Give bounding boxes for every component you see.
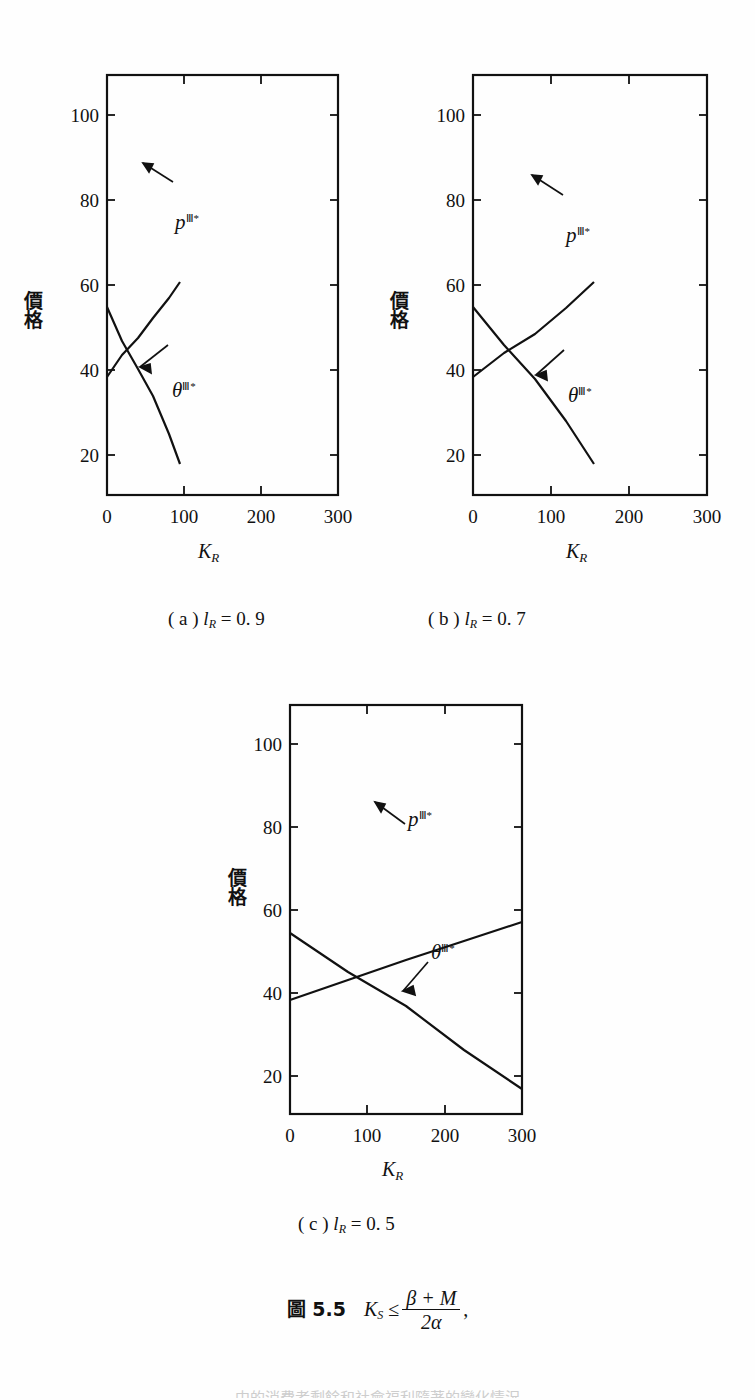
panel-b-x-axis-label-main: K [566,540,579,562]
panel-b-ytick-100: 100 [437,105,466,126]
panel-a-y-ticks [107,115,338,455]
panel-b-xtick-200: 200 [615,506,644,527]
page-bottom-bleed-text: 中的消費者剩餘和社會福利隨著的變化情況 [0,1386,755,1398]
panel-b-caption: ( b ) lR = 0. 7 [428,608,526,632]
panel-b-xtick-300: 300 [693,506,722,527]
panel-c-label-p-sup: Ⅲ* [419,809,433,821]
panel-a-svg: 100 80 60 40 20 0 100 200 300 [0,55,370,555]
panel-b-xtick-100: 100 [537,506,566,527]
panel-b-xtick-0: 0 [468,506,478,527]
panel-a-caption-eq: = [221,608,232,629]
formula-lhs-sub: S [377,1308,383,1322]
panel-a: 價格 [0,55,370,600]
panel-a-ytick-20: 20 [80,445,99,466]
panel-b-svg: 100 80 60 40 20 0 100 200 300 [366,55,746,555]
panel-b-x-axis-label-sub: R [579,550,587,565]
panel-b-x-axis-label: KR [566,540,587,566]
panel-c-xtick-0: 0 [285,1125,295,1146]
panel-c-label-theta: θⅢ* [431,940,455,965]
panel-c-label-p-symbol: p [408,807,419,831]
panel-a-x-axis-label-main: K [198,540,211,562]
panel-b-caption-value: 0. 7 [497,608,526,629]
panel-a-ytick-80: 80 [80,190,99,211]
panel-a-label-p-sup: Ⅲ* [186,212,200,224]
panel-b-ytick-20: 20 [446,445,465,466]
panel-c-ytick-100: 100 [254,734,283,755]
panel-b-label-p: pⅢ* [566,223,590,248]
formula-denominator: 2α [402,1309,460,1333]
panel-c-xtick-200: 200 [431,1125,460,1146]
panel-a-ytick-100: 100 [71,105,100,126]
panel-a-label-p-symbol: p [175,210,186,234]
panel-c-y-ticks [290,744,522,1076]
panel-c-svg: 100 80 60 40 20 0 100 200 300 [183,690,583,1160]
panel-c-ytick-60: 60 [263,900,282,921]
panel-a-x-ticks [184,75,261,495]
figure-page: 價格 [0,0,755,1400]
panel-c-caption-value: 0. 5 [366,1213,395,1234]
panel-c-x-axis-label: KR [382,1158,403,1184]
panel-c-x-ticks [367,705,445,1114]
panel-b-ytick-60: 60 [446,275,465,296]
panel-b-caption-prefix: ( b ) [428,608,460,629]
panel-a-label-theta-symbol: θ [172,378,182,402]
panel-a-caption-prefix: ( a ) [168,608,199,629]
formula-trailing: , [463,1298,468,1320]
formula-lhs: K [364,1298,377,1320]
panel-a-x-axis-label: KR [198,540,219,566]
panel-a-label-p: pⅢ* [175,210,199,235]
panel-c-xtick-100: 100 [353,1125,382,1146]
panel-b-label-p-symbol: p [566,223,577,247]
panel-a-caption-value: 0. 9 [236,608,265,629]
panel-a-axis-frame [107,75,338,495]
figure-number: 圖 5.5 [287,1298,346,1320]
panel-a-annotation-arrows [140,163,173,373]
panel-b-ytick-40: 40 [446,360,465,381]
panel-c-label-p: pⅢ* [408,807,432,832]
panel-b-caption-sub: R [470,617,477,631]
panel-a-xtick-300: 300 [324,506,353,527]
panel-c-x-axis-label-main: K [382,1158,395,1180]
panel-a-caption-sub: R [209,617,216,631]
panel-a-plot: 100 80 60 40 20 0 100 200 300 [0,55,370,555]
panel-c-xtick-300: 300 [508,1125,537,1146]
panel-b-annotation-arrows [532,175,564,380]
panel-c-caption: ( c ) lR = 0. 5 [298,1213,395,1237]
formula-relation: ≤ [388,1298,399,1320]
panel-a-caption: ( a ) lR = 0. 9 [168,608,265,632]
panel-a-xtick-100: 100 [170,506,199,527]
panel-a-xtick-0: 0 [102,506,112,527]
panel-c-plot: 100 80 60 40 20 0 100 200 300 [183,690,583,1160]
panel-c-ytick-20: 20 [263,1066,282,1087]
panel-c-caption-sub: R [339,1222,346,1236]
figure-caption-formula: 圖 5.5KS ≤β + M2α, [0,1288,755,1335]
panel-b-label-theta-symbol: θ [568,383,578,407]
panel-b-ytick-80: 80 [446,190,465,211]
panel-a-label-theta-sup: Ⅲ* [182,380,196,392]
panel-c-axis-frame [290,705,522,1114]
panel-b-label-theta-sup: Ⅲ* [578,385,592,397]
formula-fraction: β + M2α [402,1287,460,1334]
panel-b-label-p-sup: Ⅲ* [577,225,591,237]
panel-c-label-theta-sup: Ⅲ* [441,942,455,954]
panel-a-ytick-40: 40 [80,360,99,381]
panel-b-caption-eq: = [482,608,493,629]
panel-c-caption-prefix: ( c ) [298,1213,329,1234]
panel-a-ytick-60: 60 [80,275,99,296]
formula-numerator: β + M [402,1287,460,1309]
panel-b-plot: 100 80 60 40 20 0 100 200 300 [366,55,746,555]
panel-c-x-axis-label-sub: R [395,1168,403,1183]
panel-a-x-axis-label-sub: R [211,550,219,565]
panel-c-ytick-40: 40 [263,983,282,1004]
panel-a-label-theta: θⅢ* [172,378,196,403]
panel-c-series-theta [290,933,522,1089]
panel-c-label-theta-symbol: θ [431,940,441,964]
panel-b-label-theta: θⅢ* [568,383,592,408]
panel-a-xtick-200: 200 [247,506,276,527]
panel-c-caption-eq: = [351,1213,362,1234]
panel-c: 價格 [183,690,583,1190]
panel-c-ytick-80: 80 [263,817,282,838]
panel-b: 價格 [366,55,746,600]
